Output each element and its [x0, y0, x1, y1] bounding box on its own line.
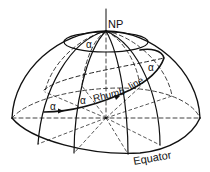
angle-label-1: α	[50, 101, 56, 112]
hemisphere-diagram: NP α α α α Rhumb line Equator	[0, 0, 210, 172]
angle-label-2: α	[80, 95, 86, 106]
rhumb-arrow	[58, 109, 64, 114]
upper-parallel	[44, 58, 164, 90]
equator-label: Equator	[132, 148, 172, 167]
angle-label-3: α	[86, 39, 92, 50]
line-label: line	[127, 74, 146, 92]
north-pole-label: NP	[108, 18, 123, 30]
rhumb-label: Rhumb	[92, 85, 126, 104]
angle-label-4: α	[148, 62, 154, 73]
